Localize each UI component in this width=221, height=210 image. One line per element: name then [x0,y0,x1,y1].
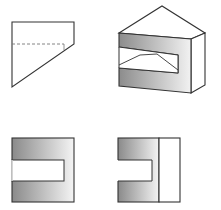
front-slot [12,160,64,181]
side-slot [117,160,152,181]
view-isometric [119,6,205,93]
view-side-trapezoid [12,22,74,87]
trapezoid-outline [12,22,74,87]
view-front [12,138,74,202]
iso-right-face [191,33,205,93]
view-side-elevation [117,138,180,202]
side-white-part [159,138,180,202]
diagram-canvas: Orthographic and isometric views of a no… [0,0,221,210]
